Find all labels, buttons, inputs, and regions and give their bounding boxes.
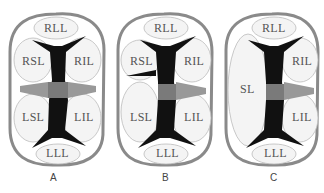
lobe-label-rll: RLL bbox=[44, 21, 68, 36]
lobe-label-rll: RLL bbox=[262, 21, 286, 36]
panel-c: RLL SL RIL LIL LLL C bbox=[216, 0, 324, 193]
lobe-label-ril: RIL bbox=[184, 54, 204, 69]
lobe-label-lll: LLL bbox=[46, 146, 69, 161]
lobe-label-lil: LIL bbox=[74, 110, 94, 125]
panel-letter-b: B bbox=[162, 172, 169, 183]
lobe-label-lsl: LSL bbox=[130, 110, 152, 125]
lobe-label-ril: RIL bbox=[292, 54, 312, 69]
lobe-label-lil: LIL bbox=[184, 110, 204, 125]
lobe-label-rll: RLL bbox=[154, 21, 178, 36]
panel-a: RLL RSL RIL LSL LIL LLL A bbox=[2, 0, 110, 193]
lobe-label-rsl: RSL bbox=[22, 54, 45, 69]
panel-letter-c: C bbox=[270, 172, 277, 183]
lobe-label-rsl: RSL bbox=[130, 54, 153, 69]
lobe-label-lsl: LSL bbox=[22, 110, 44, 125]
lobe-label-ril: RIL bbox=[74, 54, 94, 69]
lobe-label-lil: LIL bbox=[292, 110, 312, 125]
panel-b: RLL RSL RIL LSL LIL LLL B bbox=[110, 0, 218, 193]
lobe-label-lll: LLL bbox=[264, 146, 287, 161]
panel-letter-a: A bbox=[50, 172, 57, 183]
lobe-label-lll: LLL bbox=[156, 146, 179, 161]
lobe-label-sl: SL bbox=[240, 82, 255, 97]
